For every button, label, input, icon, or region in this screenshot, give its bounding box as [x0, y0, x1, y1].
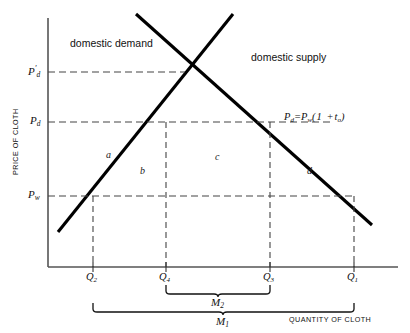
supply-curve [58, 14, 233, 232]
axis-lines [48, 18, 398, 267]
bracket-m2 [166, 285, 270, 297]
bracket-m1 [93, 303, 354, 315]
economics-tariff-diagram: PRICE OF CLOTH QUANTITY OF CLOTH domesti… [0, 0, 410, 333]
diagram-canvas [0, 0, 410, 333]
demand-curve [136, 14, 372, 225]
